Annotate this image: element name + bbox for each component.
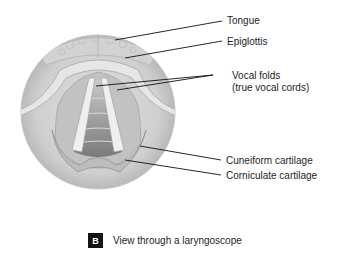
larynx-illustration <box>0 0 341 262</box>
label-epiglottis: Epiglottis <box>227 36 268 48</box>
caption-text: View through a laryngoscope <box>113 235 242 246</box>
label-vocal-folds-sub: (true vocal cords) <box>232 82 309 94</box>
label-vocal-folds: Vocal folds <box>232 70 280 82</box>
label-cuneiform: Cuneiform cartilage <box>226 155 313 167</box>
label-tongue: Tongue <box>227 15 260 27</box>
label-corniculate: Corniculate cartilage <box>226 170 317 182</box>
figure-caption: B View through a laryngoscope <box>88 233 242 248</box>
panel-badge: B <box>88 233 103 248</box>
